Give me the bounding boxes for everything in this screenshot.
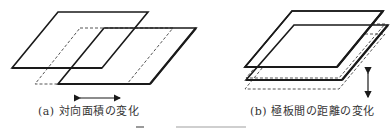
panel-b-caption: (b) 極板間の距離の変化 <box>250 102 375 118</box>
panel-b-drawing <box>245 11 388 97</box>
plate-a-original-dashed <box>35 28 173 84</box>
panel-a-drawing <box>12 12 196 98</box>
panel-a-caption: (a) 対向面積の変化 <box>38 102 139 118</box>
plate-a-top <box>12 12 148 68</box>
capacitor-figure: (a) 対向面積の変化 (b) 極板間の距離の変化 <box>0 0 391 130</box>
figure-caption-clipped <box>136 124 256 130</box>
